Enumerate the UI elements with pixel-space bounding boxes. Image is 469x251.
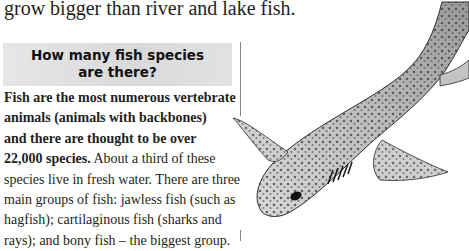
bold-text: 22,000 species.: [4, 151, 91, 166]
question-heading-line-1: How many fish species: [3, 47, 232, 64]
normal-text: rays); and bony fish – the biggest group…: [4, 233, 230, 248]
paragraph-line: rays); and bony fish – the biggest group…: [4, 231, 240, 251]
question-heading-box: How many fish species are there?: [3, 43, 232, 86]
paragraph-line: main groups of fish: jawless fish (such …: [4, 190, 240, 210]
paragraph-line: species live in fresh water. There are t…: [4, 170, 240, 190]
bold-text: animals (animals with backbones): [4, 110, 207, 125]
shark-illustration: [230, 0, 469, 241]
paragraph-line: Fish are the most numerous vertebrate: [4, 88, 240, 108]
question-heading-line-2: are there?: [3, 64, 232, 81]
normal-text: hagfish); cartilaginous fish (sharks and: [4, 212, 222, 227]
normal-text: main groups of fish: jawless fish (such …: [4, 192, 235, 207]
paragraph-line: animals (animals with backbones): [4, 108, 240, 128]
answer-paragraph: Fish are the most numerous vertebrate an…: [4, 88, 240, 251]
normal-text: species live in fresh water. There are t…: [4, 172, 240, 187]
paragraph-line: 22,000 species. About a third of these: [4, 149, 240, 169]
paragraph-line: and there are thought to be over: [4, 129, 240, 149]
bold-text: and there are thought to be over: [4, 131, 196, 146]
normal-text: About a third of these: [91, 151, 216, 166]
bold-text: Fish are the most numerous vertebrate: [4, 90, 236, 105]
paragraph-line: hagfish); cartilaginous fish (sharks and: [4, 210, 240, 230]
